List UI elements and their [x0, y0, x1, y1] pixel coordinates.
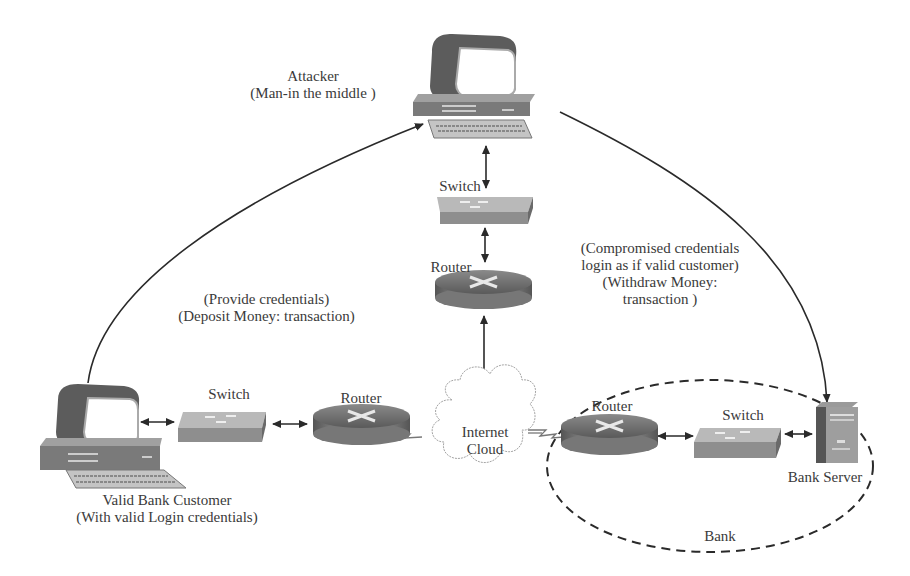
- bank-zone-label: Bank: [695, 528, 745, 545]
- annotation-line: (Withdraw Money:: [560, 274, 760, 291]
- annotation-line: (Compromised credentials: [560, 240, 760, 257]
- customer-to-attacker-arrow: [88, 124, 423, 383]
- diagram-canvas: [0, 0, 910, 576]
- bank-switch-label: Switch: [708, 407, 778, 424]
- top-switch-label: Switch: [425, 178, 495, 195]
- cloud-title: Internet: [450, 424, 520, 441]
- switch-icon: [437, 197, 533, 224]
- attacker-subtitle: (Man-in the middle ): [238, 85, 388, 102]
- annotation-line: (Provide credentials): [144, 291, 389, 308]
- internet-cloud-label: Internet Cloud: [450, 424, 520, 458]
- bank-router-label: Router: [582, 398, 642, 415]
- switch-icon: [178, 412, 266, 442]
- bank-server-label: Bank Server: [775, 469, 875, 486]
- customer-title: Valid Bank Customer: [52, 492, 282, 509]
- server-tower-icon: [816, 402, 858, 463]
- attacker-title: Attacker: [238, 68, 388, 85]
- serial-link-right: [528, 430, 564, 438]
- customer-label: Valid Bank Customer (With valid Login cr…: [52, 492, 282, 526]
- attacker-to-bank-annotation: (Compromised credentials login as if val…: [560, 240, 760, 308]
- cloud-subtitle: Cloud: [450, 441, 520, 458]
- annotation-line: transaction ): [560, 291, 760, 308]
- customer-subtitle: (With valid Login credentials): [52, 509, 282, 526]
- router-icon: [313, 404, 410, 445]
- annotation-line: login as if valid customer): [560, 257, 760, 274]
- customer-router-label: Router: [331, 390, 391, 407]
- top-router-label: Router: [421, 259, 481, 276]
- customer-to-attacker-annotation: (Provide credentials) (Deposit Money: tr…: [144, 291, 389, 325]
- desktop-computer-icon: [40, 384, 186, 488]
- customer-switch-label: Switch: [194, 386, 264, 403]
- desktop-computer-icon: [413, 34, 535, 138]
- attacker-label: Attacker (Man-in the middle ): [238, 68, 388, 102]
- router-icon: [561, 414, 658, 455]
- switch-icon: [694, 428, 781, 458]
- annotation-line: (Deposit Money: transaction): [144, 308, 389, 325]
